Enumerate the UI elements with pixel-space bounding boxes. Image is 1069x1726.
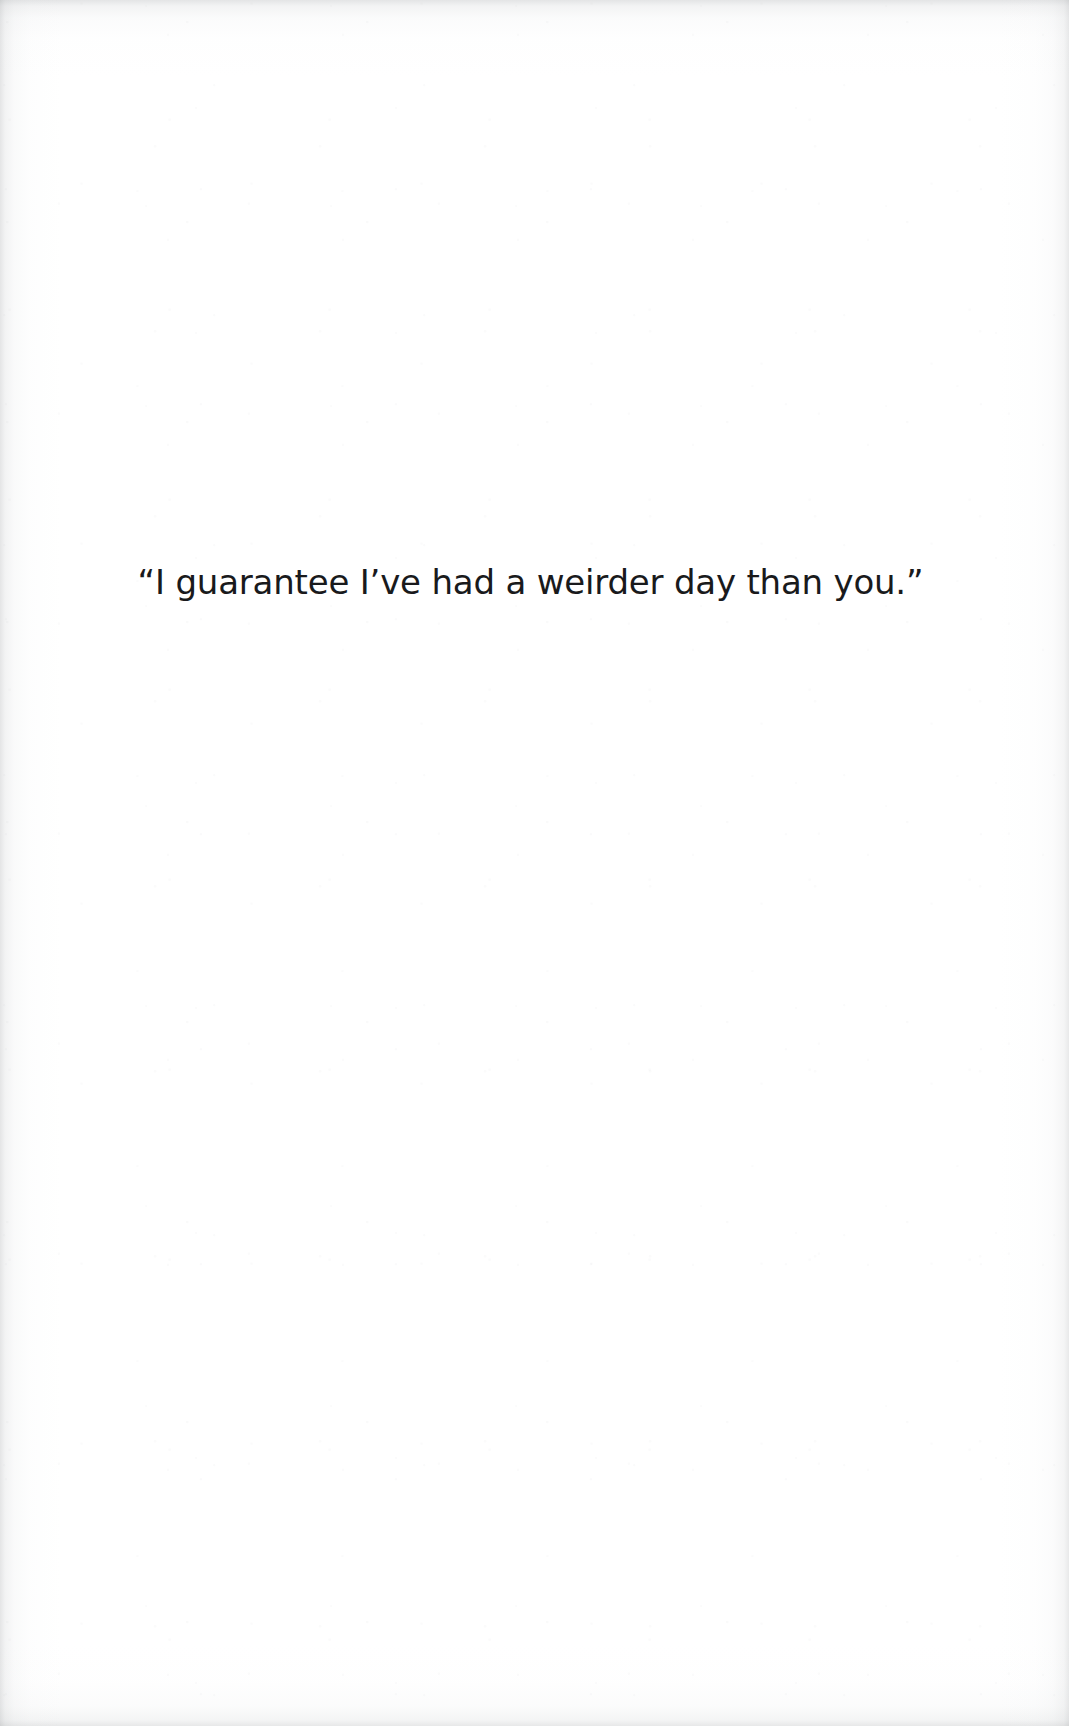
epigraph-block: “I guarantee I’ve had a weirder day than… — [0, 560, 1069, 604]
book-page: “I guarantee I’ve had a weirder day than… — [0, 0, 1069, 1726]
scan-edge-shadow-top — [0, 0, 1069, 1726]
scan-edge-shadow-left — [0, 0, 1069, 1726]
epigraph-quote: “I guarantee I’ve had a weirder day than… — [138, 560, 924, 604]
scan-edge-shadow-bottom — [0, 0, 1069, 1726]
scan-edge-shadow-right — [0, 0, 1069, 1726]
paper-grain-texture — [0, 0, 1069, 1726]
